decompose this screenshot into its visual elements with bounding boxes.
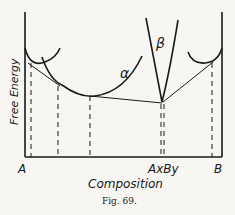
tick-label-b: B xyxy=(214,162,222,176)
beta-curve xyxy=(146,18,178,102)
tangent-alpha-beta xyxy=(90,96,162,103)
tick-label-a: A xyxy=(17,162,26,176)
figure-caption: Fig. 69. xyxy=(102,196,137,206)
left-phase-curve xyxy=(25,48,60,63)
x-axis-label: Composition xyxy=(88,177,163,191)
tangent-left-alpha xyxy=(28,63,60,86)
free-energy-diagram: α β Free Energy A AxBy B Composition Fig… xyxy=(0,0,235,215)
tangent-beta-right xyxy=(163,62,213,102)
tick-label-axby: AxBy xyxy=(147,162,180,176)
right-phase-curve xyxy=(188,48,222,63)
y-axis-label: Free Energy xyxy=(8,58,21,125)
beta-label: β xyxy=(155,35,165,51)
alpha-label: α xyxy=(120,65,130,81)
